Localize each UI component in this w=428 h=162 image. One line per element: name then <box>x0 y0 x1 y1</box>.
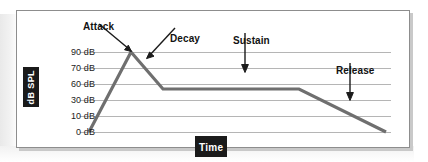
annotation-label-sustain: Sustain <box>233 35 270 46</box>
y-tick-90db: 90 dB <box>53 48 95 57</box>
y-tick-60db: 60 dB <box>53 80 95 89</box>
annotation-label-release: Release <box>336 65 375 76</box>
figure-screenshot: 90 dB 70 dB 60 dB 30 dB 10 dB 0 dB dB SP… <box>0 0 428 162</box>
annotation-label-decay: Decay <box>170 33 200 44</box>
y-axis-title: dB SPL <box>23 67 39 107</box>
x-axis-title: Time <box>195 136 227 157</box>
annotation-label-attack: Attack <box>83 21 114 32</box>
y-tick-10db: 10 dB <box>53 112 95 121</box>
y-axis-title-text: dB SPL <box>26 70 36 104</box>
figure-frame: 90 dB 70 dB 60 dB 30 dB 10 dB 0 dB dB SP… <box>16 10 410 148</box>
x-axis-title-text: Time <box>199 142 223 153</box>
y-tick-30db: 30 dB <box>53 96 95 105</box>
y-tick-70db: 70 dB <box>53 64 95 73</box>
y-tick-0db: 0 dB <box>53 128 95 137</box>
envelope-curve <box>89 52 386 132</box>
